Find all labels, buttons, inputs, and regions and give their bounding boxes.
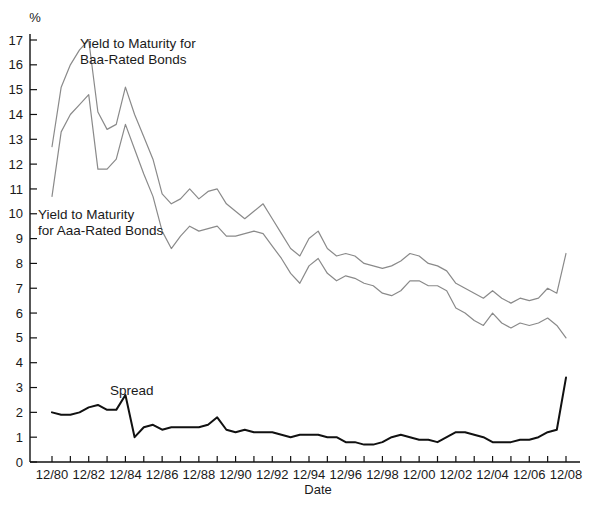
x-axis-ticks <box>52 456 566 462</box>
x-tick-label: 12/90 <box>219 467 252 482</box>
y-tick-label: 6 <box>16 306 23 321</box>
y-tick-label: 0 <box>16 455 23 470</box>
y-tick-label: 7 <box>16 281 23 296</box>
x-tick-label: 12/08 <box>550 467 583 482</box>
y-tick-label: 2 <box>16 405 23 420</box>
x-axis-tick-labels: 12/8012/8212/8412/8612/8812/9012/9212/94… <box>36 467 583 482</box>
x-tick-label: 12/84 <box>109 467 142 482</box>
aaa-annotation-line: Yield to Maturity <box>38 207 135 222</box>
series-annotations: Yield to Maturity forBaa-Rated BondsYiel… <box>38 36 196 398</box>
aaa-annotation-line: for Aaa-Rated Bonds <box>38 223 164 238</box>
y-tick-label: 5 <box>16 330 23 345</box>
y-axis-tick-labels: 01234567891011121314151617 <box>9 33 23 470</box>
y-tick-label: 12 <box>9 157 23 172</box>
x-tick-label: 12/96 <box>329 467 362 482</box>
y-tick-label: 17 <box>9 33 23 48</box>
y-tick-label: 10 <box>9 206 23 221</box>
y-tick-label: 8 <box>16 256 23 271</box>
x-tick-label: 12/88 <box>183 467 216 482</box>
x-tick-label: 12/92 <box>256 467 289 482</box>
chart-canvas: 01234567891011121314151617 12/8012/8212/… <box>0 0 595 506</box>
series-line-yield-to-maturity-for-baa-rated-bonds <box>52 40 566 303</box>
x-tick-label: 12/02 <box>440 467 473 482</box>
y-tick-label: 3 <box>16 380 23 395</box>
y-tick-label: 16 <box>9 57 23 72</box>
baa-annotation-line: Yield to Maturity for <box>80 36 196 51</box>
x-tick-label: 12/04 <box>476 467 509 482</box>
x-tick-label: 12/06 <box>513 467 546 482</box>
y-tick-label: 15 <box>9 82 23 97</box>
baa-annotation-line: Baa-Rated Bonds <box>80 52 187 67</box>
x-tick-label: 12/86 <box>146 467 179 482</box>
y-tick-label: 4 <box>16 355 23 370</box>
y-tick-label: 13 <box>9 132 23 147</box>
spread-annotation-line: Spread <box>110 383 154 398</box>
x-tick-label: 12/00 <box>403 467 436 482</box>
x-tick-label: 12/94 <box>293 467 326 482</box>
y-tick-label: 1 <box>16 430 23 445</box>
x-axis-title: Date <box>304 482 331 497</box>
x-tick-label: 12/80 <box>36 467 69 482</box>
bond-yield-chart: 01234567891011121314151617 12/8012/8212/… <box>0 0 595 506</box>
y-tick-label: 14 <box>9 107 23 122</box>
x-tick-label: 12/82 <box>72 467 105 482</box>
y-axis-ticks <box>30 40 37 462</box>
y-tick-label: 11 <box>10 182 24 197</box>
y-axis-unit-label: % <box>29 10 41 25</box>
y-tick-label: 9 <box>16 231 23 246</box>
x-tick-label: 12/98 <box>366 467 399 482</box>
